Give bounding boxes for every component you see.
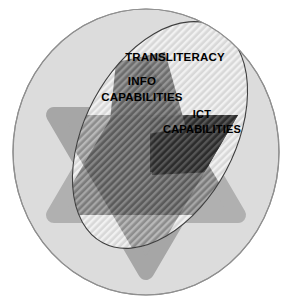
label-info-line1: INFO — [128, 75, 156, 87]
diagram-canvas: TRANSLITERACY INFO CAPABILITIES ICT CAPA… — [0, 0, 292, 308]
label-ict-line2: CAPABILITIES — [163, 123, 241, 135]
label-info-line2: CAPABILITIES — [101, 91, 183, 103]
label-ict-line1: ICT — [193, 108, 211, 120]
diagram-root: TRANSLITERACY INFO CAPABILITIES ICT CAPA… — [0, 0, 292, 308]
label-transliteracy: TRANSLITERACY — [125, 51, 225, 63]
